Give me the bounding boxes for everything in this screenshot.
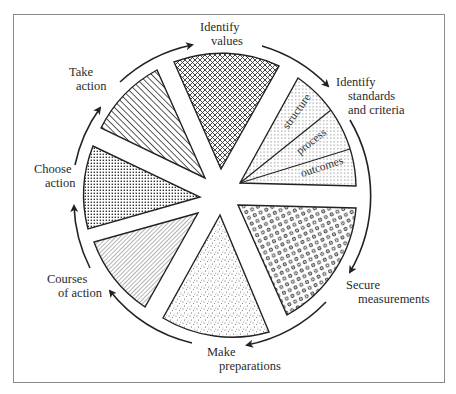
process-wheel: structure process outcomes xyxy=(0,0,456,394)
arrow-standards-to-measure xyxy=(350,120,371,272)
label-take-action: Take action xyxy=(69,65,107,93)
label-identify-standards: Identify standards and criteria xyxy=(336,75,405,117)
label-make-preparations: Make preparations xyxy=(207,345,281,373)
label-choose-action: Choose action xyxy=(34,162,76,190)
label-courses-of-action: Courses of action xyxy=(47,272,102,300)
label-identify-values: Identify values xyxy=(200,20,243,48)
label-secure-measurements: Secure measurements xyxy=(346,278,430,306)
